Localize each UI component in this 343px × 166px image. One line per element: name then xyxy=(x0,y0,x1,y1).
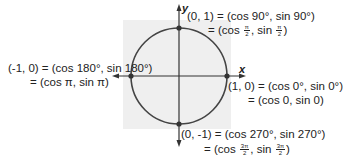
fraction-pi-over-2: π2 xyxy=(276,24,282,37)
frac-num: π xyxy=(244,24,250,31)
label-bottom-line2: = (cos 3π2, sin 3π2) xyxy=(204,143,290,156)
frac-num: 3π xyxy=(240,143,249,150)
frac-den: 2 xyxy=(240,150,249,156)
label-top-line2-mid: , sin xyxy=(251,24,275,36)
y-axis-down-arrow-icon xyxy=(177,140,182,147)
frac-den: 2 xyxy=(276,31,282,37)
label-left-line1: (-1, 0) = (cos 180°, sin 180°) xyxy=(8,62,152,75)
point-top xyxy=(176,25,181,30)
fraction-pi-over-2: π2 xyxy=(244,24,250,37)
fraction-3pi-over-2: 3π2 xyxy=(240,143,249,156)
x-axis-label: x xyxy=(239,63,245,75)
frac-den: 2 xyxy=(276,150,285,156)
label-top-line2: = (cos π2, sin π2) xyxy=(208,24,287,37)
y-axis-up-arrow-icon xyxy=(177,4,182,11)
point-right xyxy=(224,73,229,78)
label-top-line1: (0, 1) = (cos 90°, sin 90°) xyxy=(187,10,315,23)
label-left-line2: = (cos π, sin π) xyxy=(30,76,109,89)
label-right-line2: = (cos 0, sin 0) xyxy=(248,94,324,107)
frac-num: π xyxy=(276,24,282,31)
label-top-line2-suffix: ) xyxy=(283,24,287,36)
label-bottom-line2-suffix: ) xyxy=(286,143,290,155)
label-bottom-line2-mid: , sin xyxy=(250,143,274,155)
point-bottom xyxy=(176,121,181,126)
fraction-3pi-over-2: 3π2 xyxy=(276,143,285,156)
label-top-line2-prefix: = (cos xyxy=(208,24,243,36)
frac-num: 3π xyxy=(276,143,285,150)
label-bottom-line1: (0, -1) = (cos 270°, sin 270°) xyxy=(181,128,325,141)
label-right-line1: (1, 0) = (cos 0°, sin 0°) xyxy=(228,80,343,93)
label-bottom-line2-prefix: = (cos xyxy=(204,143,239,155)
frac-den: 2 xyxy=(244,31,250,37)
